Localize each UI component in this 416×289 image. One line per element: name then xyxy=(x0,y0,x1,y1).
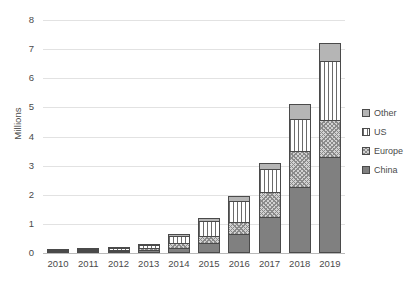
bar-segment-europe xyxy=(319,120,341,156)
legend-item-europe[interactable]: Europe xyxy=(362,146,403,156)
y-tick-label: 1 xyxy=(8,217,34,228)
bar-segment-us xyxy=(289,119,311,151)
gridline-0 xyxy=(43,253,345,254)
y-axis-title: Millions xyxy=(12,89,23,159)
bar-2016 xyxy=(228,196,250,253)
legend-swatch-icon xyxy=(362,109,370,117)
bar-segment-china xyxy=(108,251,130,253)
legend-item-china[interactable]: China xyxy=(362,165,403,175)
bar-2017 xyxy=(259,163,281,253)
bar-2019 xyxy=(319,43,341,253)
bar-2013 xyxy=(138,244,160,253)
bar-segment-europe xyxy=(289,151,311,187)
legend-label: Other xyxy=(374,108,397,118)
stacked-bar-chart: Millions 012345678 201020112012201320142… xyxy=(0,0,416,289)
bar-segment-china xyxy=(259,217,281,253)
bar-segment-us xyxy=(228,201,250,223)
bar-2010 xyxy=(47,249,69,253)
bar-segment-us xyxy=(259,169,281,192)
legend-swatch-icon xyxy=(362,166,370,174)
bar-segment-us xyxy=(319,61,341,121)
bar-segment-china xyxy=(198,243,220,253)
bar-2012 xyxy=(108,247,130,253)
bar-segment-us xyxy=(198,221,220,236)
bar-segment-other xyxy=(319,43,341,60)
bar-segment-europe xyxy=(198,236,220,243)
y-tick-label: 6 xyxy=(8,72,34,83)
legend-label: US xyxy=(374,127,387,137)
legend-swatch-icon xyxy=(362,147,370,155)
bar-2011 xyxy=(77,248,99,253)
y-tick-label: 3 xyxy=(8,159,34,170)
x-tick-label: 2019 xyxy=(310,258,350,269)
y-tick-label: 7 xyxy=(8,43,34,54)
bar-segment-europe xyxy=(228,222,250,234)
y-tick-label: 2 xyxy=(8,188,34,199)
y-tick-label: 5 xyxy=(8,101,34,112)
bar-series-container xyxy=(43,20,345,253)
bar-2018 xyxy=(289,104,311,253)
y-tick-label: 4 xyxy=(8,130,34,141)
bar-2014 xyxy=(168,234,190,253)
y-tick-label: 0 xyxy=(8,247,34,258)
bar-segment-other xyxy=(289,104,311,119)
legend-label: China xyxy=(374,165,398,175)
plot-area xyxy=(43,20,345,253)
legend: OtherUSEuropeChina xyxy=(362,108,403,175)
bar-segment-china xyxy=(77,251,99,253)
bar-segment-china xyxy=(319,157,341,253)
y-tick-label: 8 xyxy=(8,14,34,25)
bar-segment-europe xyxy=(259,192,281,217)
legend-label: Europe xyxy=(374,146,403,156)
legend-swatch-icon xyxy=(362,128,370,136)
bar-segment-china xyxy=(168,248,190,253)
bar-segment-china xyxy=(47,251,69,253)
bar-segment-us xyxy=(168,236,190,243)
bar-segment-china xyxy=(138,250,160,253)
legend-item-us[interactable]: US xyxy=(362,127,403,137)
legend-item-other[interactable]: Other xyxy=(362,108,403,118)
bar-2015 xyxy=(198,218,220,253)
bar-segment-china xyxy=(228,234,250,253)
bar-segment-china xyxy=(289,187,311,253)
